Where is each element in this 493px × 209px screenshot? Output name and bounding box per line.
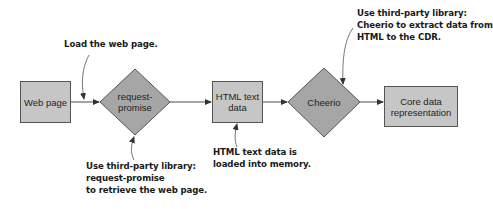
callout-leader-cheerio [343,28,353,84]
callout-request-promise-line2: request-promise [86,172,207,184]
callout-request-promise-line1: Use third-party library: [86,160,207,172]
callout-request-promise-line3: to retrieve the web page. [86,184,207,196]
core-data-label-line2: representation [391,107,452,118]
core-data-label-line1: Core data [400,96,442,107]
callout-leader-html-text [235,124,237,147]
html-text-data-node: HTML text data [212,81,263,123]
request-promise-label-line1: request- [118,91,153,102]
callout-cheerio-line2: Cheerio to extract data from [357,19,493,31]
callout-load-web-page: Load the web page. [64,38,158,50]
web-page-node: Web page [20,81,71,123]
callout-cheerio: Use third-party library: Cheerio to extr… [357,7,493,43]
callout-html-text-line2: loaded into memory. [213,158,311,170]
callout-cheerio-line1: Use third-party library: [357,7,493,19]
callout-leader-request-promise [131,137,134,160]
core-data-node: Core data representation [384,86,458,127]
callout-cheerio-line3: HTML to the CDR. [357,31,493,43]
callout-request-promise: Use third-party library: request-promise… [86,160,207,196]
request-promise-node: request- promise [104,82,166,122]
html-text-data-label-line2: data [228,102,247,113]
cheerio-label: Cheerio [307,97,340,108]
web-page-label: Web page [24,97,67,108]
callout-leader-load-web-page [82,55,89,99]
request-promise-label-line2: promise [118,102,152,113]
html-text-data-label-line1: HTML text [216,91,259,102]
callout-html-text: HTML text data is loaded into memory. [213,146,311,170]
cheerio-node: Cheerio [290,92,358,112]
callout-load-web-page-line1: Load the web page. [64,38,158,50]
callout-html-text-line1: HTML text data is [213,146,311,158]
